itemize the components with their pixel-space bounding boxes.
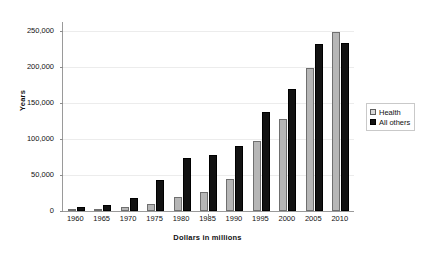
x-tick-label: 1960 (62, 214, 88, 228)
x-tick-label: 1980 (168, 214, 194, 228)
bars-layer (63, 22, 354, 211)
bar-allothers-2005[interactable] (315, 44, 323, 211)
bar-health-1985[interactable] (200, 192, 208, 211)
legend-item[interactable]: Health (370, 107, 410, 117)
bar-health-1960[interactable] (68, 209, 76, 211)
chart-legend: HealthAll others (366, 103, 415, 131)
bar-chart-figure: Years 050,000100,000150,000200,000250,00… (0, 0, 445, 258)
bar-allothers-1980[interactable] (183, 158, 191, 211)
bar-health-1980[interactable] (174, 197, 182, 211)
bar-health-1970[interactable] (121, 207, 129, 211)
x-tick-label: 1970 (115, 214, 141, 228)
bar-group (63, 22, 89, 211)
bar-group (195, 22, 221, 211)
legend-label: Health (379, 108, 401, 117)
legend-swatch-icon (370, 109, 376, 115)
bar-group (142, 22, 168, 211)
x-tick-label: 2005 (300, 214, 326, 228)
bar-health-1975[interactable] (147, 204, 155, 211)
bar-allothers-1960[interactable] (77, 207, 85, 211)
x-tick-label: 1975 (141, 214, 167, 228)
bar-health-1965[interactable] (94, 209, 102, 211)
bar-health-2000[interactable] (279, 119, 287, 211)
y-axis-tick-labels: 050,000100,000150,000200,000250,000 (0, 0, 58, 258)
x-axis-tick-labels: 1960196519701975198019851990199520002005… (62, 214, 353, 228)
x-tick-label: 2010 (327, 214, 353, 228)
x-tick-label: 1995 (247, 214, 273, 228)
bar-group (222, 22, 248, 211)
x-tick-label: 2000 (274, 214, 300, 228)
bar-group (169, 22, 195, 211)
bar-allothers-1970[interactable] (130, 198, 138, 211)
bar-health-2010[interactable] (332, 32, 340, 211)
bar-group (248, 22, 274, 211)
bar-allothers-1995[interactable] (262, 112, 270, 211)
bar-health-1995[interactable] (253, 141, 261, 211)
bar-group (301, 22, 327, 211)
plot-area (62, 22, 354, 212)
bar-group (89, 22, 115, 211)
bar-allothers-2000[interactable] (288, 89, 296, 211)
bar-allothers-2010[interactable] (341, 43, 349, 211)
y-tick-label: 250,000 (27, 27, 54, 35)
bar-health-2005[interactable] (306, 68, 314, 211)
y-tick-label: 150,000 (27, 99, 54, 107)
bar-allothers-1990[interactable] (235, 146, 243, 211)
y-tick-label: 100,000 (27, 135, 54, 143)
bar-group (275, 22, 301, 211)
y-tick-label: 50,000 (31, 171, 54, 179)
bar-health-1990[interactable] (226, 179, 234, 211)
y-tick-label: 200,000 (27, 63, 54, 71)
bar-allothers-1975[interactable] (156, 180, 164, 211)
x-tick-label: 1965 (88, 214, 114, 228)
bar-allothers-1985[interactable] (209, 155, 217, 211)
legend-swatch-icon (370, 119, 376, 125)
y-tick-label: 0 (50, 207, 54, 215)
legend-item[interactable]: All others (370, 117, 410, 127)
y-tick-mark (60, 211, 63, 212)
x-axis-title: Dollars in millions (62, 233, 353, 242)
bar-group (328, 22, 354, 211)
x-tick-mark (208, 214, 209, 217)
bar-group (116, 22, 142, 211)
legend-label: All others (379, 118, 410, 127)
bar-allothers-1965[interactable] (103, 205, 111, 211)
x-tick-label: 1990 (221, 214, 247, 228)
